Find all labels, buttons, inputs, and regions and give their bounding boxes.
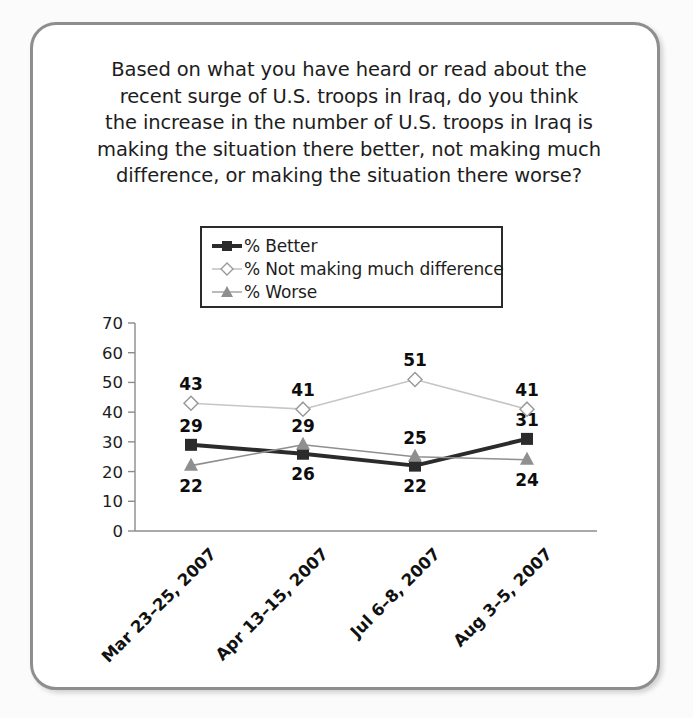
y-tick-label: 0	[113, 522, 124, 541]
data-value-label: 24	[515, 470, 539, 490]
data-point-square	[185, 439, 197, 451]
y-tick-label: 10	[102, 492, 123, 511]
question-line-2: recent surge of U.S. troops in Iraq, do …	[79, 84, 619, 111]
x-tick-label: Jul 6–8, 2007	[346, 544, 444, 642]
data-value-label: 29	[179, 416, 203, 436]
x-tick-label: Mar 23–25, 2007	[98, 544, 220, 666]
chart-page: Based on what you have heard or read abo…	[0, 0, 693, 718]
data-value-label: 51	[403, 350, 427, 370]
data-point-square	[521, 433, 533, 445]
legend-item-worse: % Worse	[210, 280, 501, 303]
data-point-triangle	[520, 452, 534, 465]
triangle-marker-icon	[210, 282, 244, 302]
data-value-label: 22	[403, 476, 427, 496]
legend-item-better: % Better	[210, 234, 501, 257]
data-point-triangle	[296, 437, 310, 450]
series-line-1	[191, 379, 527, 409]
legend-label-better: % Better	[244, 236, 317, 256]
question-line-1: Based on what you have heard or read abo…	[79, 57, 619, 84]
data-value-label: 25	[403, 428, 427, 448]
y-tick-label: 70	[102, 314, 123, 333]
question-line-3: the increase in the number of U.S. troop…	[79, 110, 619, 137]
data-point-diamond	[184, 396, 198, 410]
chart-plot-area: 010203040506070292622314341514122292524M…	[73, 305, 633, 685]
data-value-label: 41	[291, 380, 315, 400]
data-point-triangle	[408, 449, 422, 462]
data-value-label: 26	[291, 464, 315, 484]
question-line-4: making the situation there better, not m…	[79, 137, 619, 164]
chart-card: Based on what you have heard or read abo…	[30, 22, 660, 690]
data-value-label: 43	[179, 374, 203, 394]
question-text: Based on what you have heard or read abo…	[79, 57, 619, 190]
question-line-5: difference, or making the situation ther…	[79, 163, 619, 190]
data-value-label: 41	[515, 380, 539, 400]
y-tick-label: 30	[102, 433, 123, 452]
data-value-label: 29	[291, 416, 315, 436]
data-value-label: 22	[179, 476, 203, 496]
diamond-marker-icon	[210, 259, 244, 279]
legend-label-worse: % Worse	[244, 282, 317, 302]
x-tick-label: Apr 13–15, 2007	[212, 544, 332, 664]
y-tick-label: 40	[102, 403, 123, 422]
y-tick-label: 50	[102, 373, 123, 392]
y-tick-label: 60	[102, 344, 123, 363]
x-tick-label: Aug 3–5, 2007	[450, 544, 556, 650]
line-chart: 010203040506070292622314341514122292524M…	[73, 305, 633, 685]
legend-label-no-difference: % Not making much difference	[244, 259, 504, 279]
series-line-0	[191, 439, 527, 466]
chart-legend: % Better % Not making much difference	[200, 226, 503, 308]
y-tick-label: 20	[102, 463, 123, 482]
square-marker-icon	[210, 236, 244, 256]
data-point-diamond	[296, 402, 310, 416]
legend-item-no-difference: % Not making much difference	[210, 257, 501, 280]
data-point-diamond	[408, 372, 422, 386]
